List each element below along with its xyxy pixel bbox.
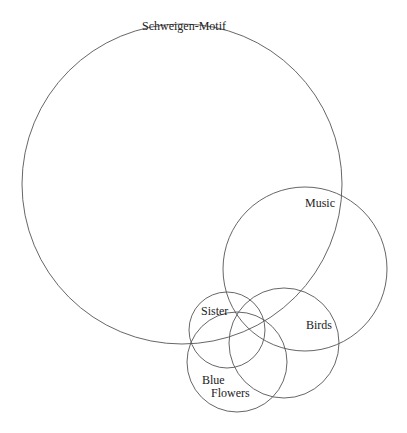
venn-diagram: [0, 0, 407, 433]
music-circle: [223, 187, 387, 351]
schweigen-motif-label: Schweigen-Motif: [142, 19, 226, 33]
blue-flowers-label-line1: Blue: [202, 373, 225, 387]
birds-label: Birds: [306, 318, 332, 332]
schweigen-motif-circle: [22, 24, 342, 344]
sister-label: Sister: [201, 304, 228, 318]
music-label: Music: [305, 196, 335, 210]
birds-circle: [229, 288, 339, 398]
blue-flowers-label-line2: Flowers: [211, 386, 250, 400]
